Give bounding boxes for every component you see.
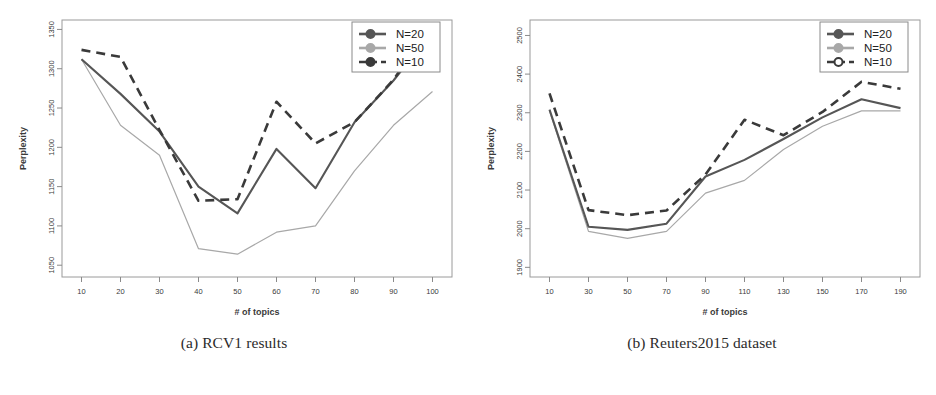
y-tick-label: 2500 xyxy=(516,27,525,44)
x-tick-label: 40 xyxy=(194,287,202,296)
legend-marker-N20 xyxy=(367,30,375,38)
x-tick-label: 30 xyxy=(584,287,592,296)
y-tick-label: 2000 xyxy=(516,220,525,237)
x-tick-label: 150 xyxy=(816,287,829,296)
y-tick-label: 1350 xyxy=(48,21,57,38)
x-tick-label: 60 xyxy=(272,287,280,296)
series-line-N50 xyxy=(550,111,901,239)
caption-b: (b) Reuters2015 dataset xyxy=(627,334,777,352)
x-axis-label: # of topics xyxy=(234,307,279,317)
x-tick-label: 130 xyxy=(777,287,790,296)
legend-label: N=50 xyxy=(864,42,892,54)
series-line-N10 xyxy=(550,82,901,215)
x-tick-label: 10 xyxy=(545,287,553,296)
x-tick-label: 170 xyxy=(855,287,868,296)
chart-a-svg: 1020304050607080901001050110011501200125… xyxy=(0,0,468,330)
y-tick-label: 2100 xyxy=(516,182,525,199)
legend-label: N=20 xyxy=(864,28,892,40)
y-tick-label: 1050 xyxy=(48,257,57,274)
legend-marker-N50 xyxy=(835,44,843,52)
legend-marker-N20 xyxy=(835,30,843,38)
x-tick-label: 50 xyxy=(623,287,631,296)
legend: N=20N=50N=10 xyxy=(352,22,440,72)
x-tick-label: 20 xyxy=(116,287,124,296)
x-tick-label: 10 xyxy=(77,287,85,296)
y-tick-label: 1300 xyxy=(48,60,57,77)
series-line-N50 xyxy=(82,59,433,254)
subfigure-a: 1020304050607080901001050110011501200125… xyxy=(0,0,468,395)
legend-label: N=50 xyxy=(396,42,424,54)
x-tick-label: 90 xyxy=(701,287,709,296)
y-tick-label: 1200 xyxy=(48,139,57,156)
y-tick-label: 1250 xyxy=(48,100,57,117)
x-tick-label: 90 xyxy=(389,287,397,296)
y-axis-label: Perplexity xyxy=(18,127,28,170)
plot-a: 1020304050607080901001050110011501200125… xyxy=(0,0,468,330)
x-tick-label: 80 xyxy=(350,287,358,296)
y-tick-label: 1100 xyxy=(48,218,57,234)
legend-marker-N50 xyxy=(367,44,375,52)
x-tick-label: 110 xyxy=(739,287,751,296)
y-tick-label: 2200 xyxy=(516,143,525,160)
legend-marker-N10 xyxy=(835,58,843,66)
x-axis-label: # of topics xyxy=(702,307,747,317)
x-tick-label: 190 xyxy=(894,287,907,296)
subfigure-b: 1030507090110130150170190190020002100220… xyxy=(468,0,936,395)
legend-label: N=10 xyxy=(396,56,424,68)
legend-label: N=20 xyxy=(396,28,424,40)
x-tick-label: 70 xyxy=(311,287,319,296)
x-tick-label: 50 xyxy=(233,287,241,296)
y-axis-label: Perplexity xyxy=(486,127,496,170)
legend: N=20N=50N=10 xyxy=(820,22,908,72)
y-tick-label: 2400 xyxy=(516,66,525,83)
plot-b: 1030507090110130150170190190020002100220… xyxy=(468,0,936,330)
x-tick-label: 30 xyxy=(155,287,163,296)
y-tick-label: 1900 xyxy=(516,259,525,276)
y-tick-label: 1150 xyxy=(48,179,57,195)
chart-b-svg: 1030507090110130150170190190020002100220… xyxy=(468,0,936,330)
y-tick-label: 2300 xyxy=(516,104,525,121)
legend-marker-N10 xyxy=(367,58,375,66)
legend-label: N=10 xyxy=(864,56,892,68)
figure-row: 1020304050607080901001050110011501200125… xyxy=(0,0,936,395)
x-tick-label: 100 xyxy=(426,287,439,296)
series-line-N20 xyxy=(550,99,901,230)
caption-a: (a) RCV1 results xyxy=(181,334,288,352)
x-tick-label: 70 xyxy=(662,287,670,296)
